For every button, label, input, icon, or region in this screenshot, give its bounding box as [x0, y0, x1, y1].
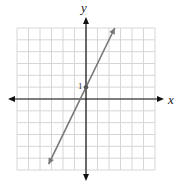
- x-axis-right-arrow-icon: [157, 96, 164, 102]
- plotted-line: [49, 28, 115, 164]
- y-axis-label: y: [81, 1, 87, 14]
- axes: [8, 17, 164, 181]
- y-intercept-point: [84, 85, 88, 89]
- y-axis-up-arrow-icon: [83, 17, 89, 24]
- x-axis-label: x: [168, 93, 174, 106]
- x-axis-left-arrow-icon: [8, 96, 15, 102]
- y-tick-label-1: 1: [78, 82, 83, 91]
- coordinate-graph: [0, 0, 177, 184]
- y-axis-down-arrow-icon: [83, 174, 89, 181]
